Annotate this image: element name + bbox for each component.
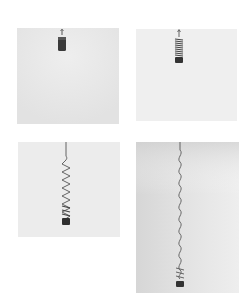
spring-slightly-extended-icon <box>136 29 237 121</box>
spring-fully-extended-icon <box>136 142 239 293</box>
spring-compressed-icon <box>17 28 119 124</box>
spring-half-extended-icon <box>18 142 120 237</box>
photo-panel-fully-extended <box>136 142 239 293</box>
photo-panel-slightly-extended <box>136 29 237 121</box>
photo-panel-compressed <box>17 28 119 124</box>
photo-panel-half-extended <box>18 142 120 237</box>
